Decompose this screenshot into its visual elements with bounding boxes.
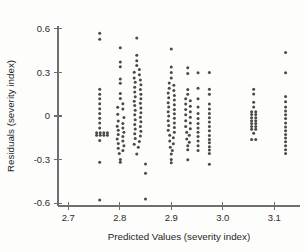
data-point — [135, 36, 138, 39]
data-point — [139, 135, 142, 138]
data-point — [197, 149, 200, 152]
data-point — [117, 147, 120, 150]
y-axis-title: Residuals (severity index) — [5, 60, 16, 172]
data-point — [208, 71, 211, 74]
data-point — [167, 106, 170, 109]
data-point — [95, 134, 98, 137]
data-point — [134, 109, 137, 112]
data-point — [186, 93, 189, 96]
data-point — [139, 111, 142, 114]
data-point — [284, 140, 287, 143]
data-point — [173, 94, 176, 97]
data-point — [254, 119, 257, 122]
data-point — [139, 120, 142, 123]
data-point — [134, 81, 137, 84]
data-point — [184, 108, 187, 111]
data-point — [208, 138, 211, 141]
data-point — [167, 129, 170, 132]
data-point — [186, 144, 189, 147]
x-tick-label: 3.1 — [268, 212, 281, 223]
data-point — [284, 144, 287, 147]
x-tick-label: 2.9 — [165, 212, 178, 223]
data-point — [197, 144, 200, 147]
data-point — [99, 134, 102, 137]
data-point — [172, 84, 175, 87]
data-point — [138, 140, 141, 143]
data-point — [186, 158, 189, 161]
data-point — [121, 122, 124, 125]
data-point — [122, 131, 125, 134]
data-point — [139, 102, 142, 105]
data-point — [106, 134, 109, 137]
data-point — [98, 112, 101, 115]
data-point — [137, 146, 140, 149]
data-point — [139, 79, 142, 82]
data-point — [186, 88, 189, 91]
data-point — [119, 161, 122, 164]
data-point — [189, 116, 192, 119]
data-point — [284, 113, 287, 116]
data-point — [134, 128, 137, 131]
data-point — [135, 153, 138, 156]
data-point — [133, 132, 136, 135]
data-point — [184, 113, 187, 116]
data-point — [121, 135, 124, 138]
data-points-group — [95, 32, 287, 202]
data-point — [119, 46, 122, 49]
data-point — [197, 87, 200, 90]
residual-scatter-plot-figure: 0.60.30-0.3-0.6 2.72.82.93.03.1 Predicte… — [0, 0, 305, 252]
data-point — [133, 91, 136, 94]
data-point — [284, 71, 287, 74]
data-point — [117, 142, 120, 145]
data-point — [139, 88, 142, 91]
data-point — [102, 134, 105, 137]
data-point — [284, 121, 287, 124]
data-point — [122, 116, 125, 119]
data-point — [208, 108, 211, 111]
data-point — [189, 127, 192, 130]
data-point — [134, 118, 137, 121]
data-point — [121, 149, 124, 152]
axes-group — [58, 26, 300, 206]
data-point — [284, 152, 287, 155]
data-point — [121, 102, 124, 105]
data-point — [208, 129, 211, 132]
data-point — [252, 132, 255, 135]
data-point — [98, 121, 101, 124]
y-tick-label: 0.6 — [37, 23, 50, 34]
data-point — [208, 112, 211, 115]
data-point — [122, 144, 125, 147]
data-point — [117, 129, 120, 132]
data-point — [98, 38, 101, 41]
data-point — [119, 65, 122, 68]
data-point — [208, 103, 211, 106]
data-point — [173, 99, 176, 102]
x-axis-ticks: 2.72.82.93.03.1 — [62, 202, 281, 223]
data-point — [170, 71, 173, 74]
data-point — [208, 116, 211, 119]
data-point — [98, 198, 101, 201]
data-point — [208, 141, 211, 144]
x-tick-label: 2.8 — [113, 212, 126, 223]
data-point — [197, 122, 200, 125]
data-point — [116, 137, 119, 140]
plot-canvas: 0.60.30-0.3-0.6 2.72.82.93.03.1 Predicte… — [0, 0, 305, 252]
data-point — [167, 101, 170, 104]
data-point — [139, 97, 142, 100]
data-point — [173, 117, 176, 120]
data-point — [188, 134, 191, 137]
data-point — [185, 137, 188, 140]
data-point — [98, 32, 101, 35]
data-point — [133, 143, 136, 146]
data-point — [172, 89, 175, 92]
data-point — [170, 158, 173, 161]
data-point — [98, 93, 101, 96]
data-point — [208, 125, 211, 128]
data-point — [173, 131, 176, 134]
y-tick-label: 0 — [45, 110, 50, 121]
data-point — [284, 148, 287, 151]
data-point — [98, 88, 101, 91]
data-point — [250, 119, 253, 122]
data-point — [250, 122, 253, 125]
data-point — [170, 76, 173, 79]
